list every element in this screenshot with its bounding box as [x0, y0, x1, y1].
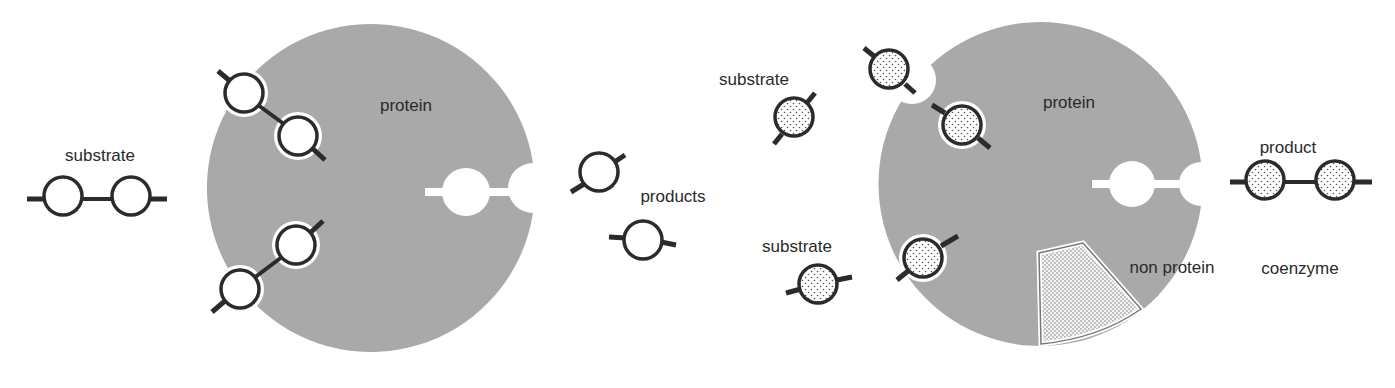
label-protein-left: protein [380, 96, 432, 115]
label-non-protein: non protein [1129, 258, 1214, 277]
label-product: product [1260, 138, 1317, 157]
left-panel: substrate protein [27, 24, 706, 352]
bound-substrate-top [864, 48, 915, 93]
label-protein-right: protein [1043, 93, 1095, 112]
label-coenzyme: coenzyme [1261, 259, 1338, 278]
right-panel: substrate substrate protein non prote [719, 22, 1372, 346]
product-molecule-joined [1230, 161, 1372, 199]
free-substrate-bottom [786, 265, 852, 303]
product-molecule-1 [571, 153, 625, 192]
free-substrate-molecule [27, 177, 167, 215]
free-substrate-top [774, 93, 815, 144]
enzyme-diagram: substrate protein [0, 0, 1395, 388]
label-substrate-bottom: substrate [762, 237, 832, 256]
label-substrate-top: substrate [719, 70, 789, 89]
label-substrate-left: substrate [65, 146, 135, 165]
product-molecule-2 [609, 221, 676, 259]
label-products: products [640, 187, 705, 206]
